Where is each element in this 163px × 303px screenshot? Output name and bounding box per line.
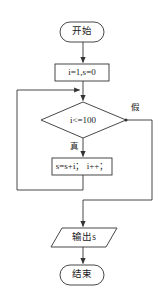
- node-body-shape: [52, 158, 112, 175]
- node-decision-shape: [41, 102, 126, 138]
- flowchart-diagram: 开始 i=1,s=0 i<=100 s=s+i； i++； 输出s 结束 真 假: [0, 0, 163, 303]
- node-start-shape: [60, 22, 104, 42]
- node-init-shape: [55, 64, 109, 81]
- node-end-shape: [60, 265, 104, 285]
- flowchart-canvas: [0, 0, 163, 303]
- node-output-shape: [51, 228, 117, 247]
- junction-false-branch-corner: [125, 119, 128, 122]
